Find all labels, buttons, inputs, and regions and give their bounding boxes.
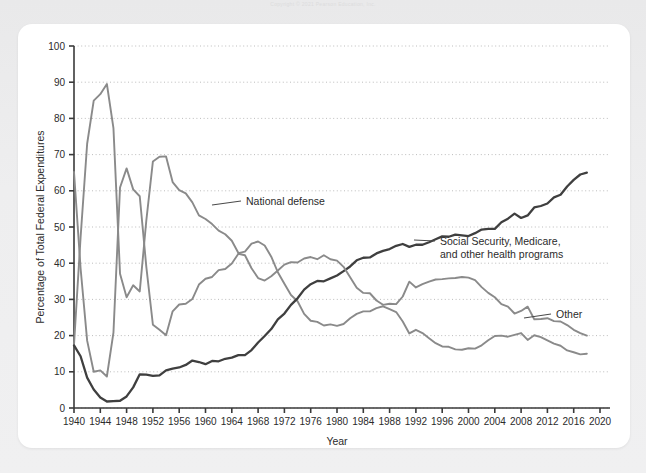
x-axis-title: Year	[326, 435, 348, 447]
y-tick-label-70: 70	[54, 149, 66, 160]
x-tick-label-1996: 1996	[431, 416, 454, 427]
y-tick-label-60: 60	[54, 185, 66, 196]
x-tick-label-1980: 1980	[326, 416, 349, 427]
x-tick-label-1960: 1960	[194, 416, 217, 427]
line-chart: 0102030405060708090100194019441948195219…	[0, 0, 646, 473]
y-tick-label-50: 50	[54, 222, 66, 233]
x-tick-label-1964: 1964	[221, 416, 244, 427]
annotation-leader-0	[212, 201, 241, 205]
x-tick-label-2020: 2020	[589, 416, 612, 427]
x-tick-label-1976: 1976	[300, 416, 323, 427]
x-tick-label-2012: 2012	[536, 416, 559, 427]
x-tick-label-1984: 1984	[352, 416, 375, 427]
x-tick-label-1972: 1972	[273, 416, 296, 427]
x-tick-label-1944: 1944	[89, 416, 112, 427]
x-tick-label-1948: 1948	[115, 416, 138, 427]
x-tick-label-1956: 1956	[168, 416, 191, 427]
series-annotation-label-0: National defense	[246, 195, 325, 207]
x-tick-label-2016: 2016	[563, 416, 586, 427]
series-annotation-label-2: and other health programs	[440, 248, 563, 260]
y-axis-title: Percentage of Total Federal Expenditures	[34, 130, 46, 323]
x-tick-label-1952: 1952	[142, 416, 165, 427]
y-axis-ticks: 0102030405060708090100	[48, 41, 74, 414]
x-tick-label-2008: 2008	[510, 416, 533, 427]
y-tick-label-40: 40	[54, 258, 66, 269]
x-tick-label-1988: 1988	[378, 416, 401, 427]
x-tick-label-1992: 1992	[405, 416, 428, 427]
y-tick-label-20: 20	[54, 330, 66, 341]
y-tick-label-90: 90	[54, 77, 66, 88]
series-line-other	[74, 168, 587, 376]
y-tick-label-10: 10	[54, 366, 66, 377]
series-annotation-label-3: Other	[556, 308, 583, 320]
y-tick-label-80: 80	[54, 113, 66, 124]
x-tick-label-2004: 2004	[484, 416, 507, 427]
series-line-social-security-medicare-and-other-health-programs	[74, 173, 587, 402]
x-tick-label-1968: 1968	[247, 416, 270, 427]
gridlines-group	[74, 46, 610, 408]
x-tick-label-1940: 1940	[63, 416, 86, 427]
y-tick-label-30: 30	[54, 294, 66, 305]
annotations-group: National defenseSocial Security, Medicar…	[212, 195, 583, 320]
y-tick-label-0: 0	[59, 403, 65, 414]
chart-container: 0102030405060708090100194019441948195219…	[0, 0, 646, 473]
y-tick-label-100: 100	[48, 41, 65, 52]
x-tick-label-2000: 2000	[457, 416, 480, 427]
axes-group	[74, 46, 610, 408]
x-axis-ticks: 1940194419481952195619601964196819721976…	[63, 408, 612, 427]
series-annotation-label-1: Social Security, Medicare,	[440, 235, 561, 247]
